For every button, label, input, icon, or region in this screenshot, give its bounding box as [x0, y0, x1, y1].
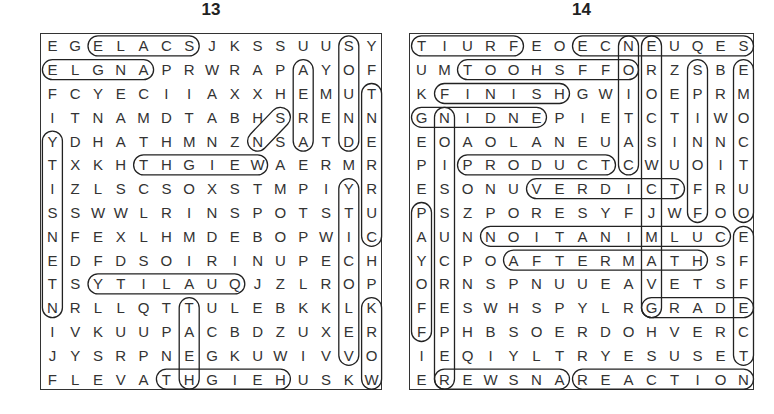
grid-cell[interactable]: U [109, 320, 132, 344]
grid-cell[interactable]: T [548, 248, 571, 272]
grid-cell[interactable]: U [594, 129, 617, 153]
grid-cell[interactable]: O [410, 272, 433, 296]
grid-cell[interactable]: I [410, 343, 433, 367]
grid-cell[interactable]: O [732, 105, 755, 129]
grid-cell[interactable]: T [292, 201, 315, 225]
grid-cell[interactable]: F [732, 248, 755, 272]
grid-cell[interactable]: F [41, 367, 64, 391]
grid-cell[interactable]: U [292, 34, 315, 58]
grid-cell[interactable]: E [525, 34, 548, 58]
grid-cell[interactable]: V [640, 272, 663, 296]
grid-cell[interactable]: O [178, 177, 201, 201]
grid-cell[interactable]: G [64, 34, 87, 58]
grid-cell[interactable]: P [292, 224, 315, 248]
grid-cell[interactable]: G [571, 82, 594, 106]
grid-cell[interactable]: P [155, 320, 178, 344]
grid-cell[interactable]: O [337, 272, 360, 296]
grid-cell[interactable]: V [525, 177, 548, 201]
grid-cell[interactable]: N [433, 105, 456, 129]
grid-cell[interactable]: T [732, 343, 755, 367]
grid-cell[interactable]: A [571, 224, 594, 248]
grid-cell[interactable]: I [617, 82, 640, 106]
grid-cell[interactable]: E [456, 367, 479, 391]
grid-cell[interactable]: K [87, 320, 110, 344]
grid-cell[interactable]: T [132, 129, 155, 153]
grid-cell[interactable]: R [360, 153, 383, 177]
grid-cell[interactable]: R [201, 248, 224, 272]
grid-cell[interactable]: P [502, 272, 525, 296]
grid-cell[interactable]: O [548, 34, 571, 58]
grid-cell[interactable]: I [709, 153, 732, 177]
grid-cell[interactable]: I [223, 367, 246, 391]
grid-cell[interactable]: E [360, 129, 383, 153]
grid-cell[interactable]: I [456, 82, 479, 106]
grid-cell[interactable]: E [410, 177, 433, 201]
grid-cell[interactable]: U [292, 320, 315, 344]
grid-cell[interactable]: V [109, 367, 132, 391]
grid-cell[interactable]: S [640, 343, 663, 367]
grid-cell[interactable]: H [155, 129, 178, 153]
grid-cell[interactable]: S [269, 34, 292, 58]
grid-cell[interactable]: W [640, 153, 663, 177]
grid-cell[interactable]: Y [41, 129, 64, 153]
grid-cell[interactable]: J [41, 343, 64, 367]
grid-cell[interactable]: W [479, 296, 502, 320]
grid-cell[interactable]: P [433, 320, 456, 344]
grid-cell[interactable]: L [292, 272, 315, 296]
grid-cell[interactable]: N [479, 82, 502, 106]
grid-cell[interactable]: H [109, 153, 132, 177]
grid-cell[interactable]: M [433, 58, 456, 82]
grid-cell[interactable]: C [360, 224, 383, 248]
grid-cell[interactable]: U [502, 177, 525, 201]
grid-cell[interactable]: T [663, 248, 686, 272]
grid-cell[interactable]: C [617, 153, 640, 177]
grid-cell[interactable]: B [223, 320, 246, 344]
grid-cell[interactable]: N [502, 105, 525, 129]
grid-cell[interactable]: O [502, 201, 525, 225]
grid-cell[interactable]: T [155, 367, 178, 391]
grid-cell[interactable]: A [178, 272, 201, 296]
grid-cell[interactable]: P [548, 105, 571, 129]
grid-cell[interactable]: U [663, 153, 686, 177]
grid-cell[interactable]: B [269, 296, 292, 320]
grid-cell[interactable]: L [109, 34, 132, 58]
grid-cell[interactable]: R [594, 248, 617, 272]
grid-cell[interactable]: P [410, 153, 433, 177]
grid-cell[interactable]: A [640, 248, 663, 272]
grid-cell[interactable]: N [617, 34, 640, 58]
grid-cell[interactable]: E [223, 153, 246, 177]
grid-cell[interactable]: Y [64, 343, 87, 367]
grid-cell[interactable]: R [433, 272, 456, 296]
grid-cell[interactable]: T [178, 296, 201, 320]
grid-cell[interactable]: W [201, 58, 224, 82]
grid-cell[interactable]: S [269, 105, 292, 129]
grid-cell[interactable]: E [571, 248, 594, 272]
grid-cell[interactable]: Y [594, 201, 617, 225]
grid-cell[interactable]: I [223, 248, 246, 272]
grid-cell[interactable]: D [594, 177, 617, 201]
grid-cell[interactable]: T [246, 177, 269, 201]
grid-cell[interactable]: N [456, 224, 479, 248]
grid-cell[interactable]: I [571, 105, 594, 129]
grid-cell[interactable]: E [732, 224, 755, 248]
grid-cell[interactable]: Z [223, 129, 246, 153]
grid-cell[interactable]: I [178, 82, 201, 106]
grid-cell[interactable]: S [525, 82, 548, 106]
grid-cell[interactable]: E [87, 224, 110, 248]
grid-cell[interactable]: G [640, 296, 663, 320]
grid-cell[interactable]: S [64, 272, 87, 296]
grid-cell[interactable]: D [337, 129, 360, 153]
grid-cell[interactable]: E [337, 320, 360, 344]
grid-cell[interactable]: E [41, 248, 64, 272]
grid-cell[interactable]: A [246, 58, 269, 82]
grid-cell[interactable]: O [502, 58, 525, 82]
grid-cell[interactable]: W [109, 201, 132, 225]
grid-cell[interactable]: E [617, 343, 640, 367]
grid-cell[interactable]: S [571, 201, 594, 225]
grid-cell[interactable]: W [87, 201, 110, 225]
grid-cell[interactable]: R [64, 296, 87, 320]
grid-cell[interactable]: P [269, 58, 292, 82]
grid-cell[interactable]: P [456, 153, 479, 177]
grid-cell[interactable]: H [87, 129, 110, 153]
grid-cell[interactable]: R [360, 320, 383, 344]
